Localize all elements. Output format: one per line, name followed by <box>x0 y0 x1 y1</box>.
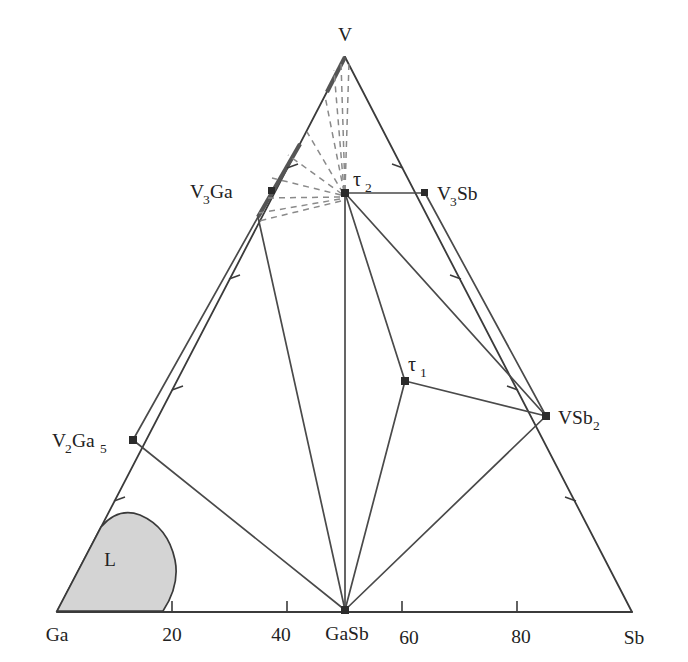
svg-text:2: 2 <box>65 441 72 456</box>
dashline-tau2-v-b <box>345 62 349 191</box>
edge-v-sb <box>345 57 632 612</box>
svg-text:1: 1 <box>420 365 427 380</box>
svg-text:Ga: Ga <box>72 430 95 451</box>
dashline-tau2-edge-2 <box>307 132 343 193</box>
tieline-v3sb-vsb2 <box>425 193 546 416</box>
axis-label-60: 60 <box>399 627 419 648</box>
label-liquid: L <box>104 549 116 570</box>
label-tau1: τ 1 <box>408 353 427 380</box>
marker-tau1 <box>401 377 409 385</box>
axis-label-40: 40 <box>271 624 291 645</box>
label-tau2: τ 2 <box>353 168 372 195</box>
marker-vsb2 <box>542 412 550 420</box>
marker-gasb <box>341 606 349 614</box>
svg-text:τ: τ <box>353 168 361 190</box>
axis-label-sb: Sb <box>624 627 645 648</box>
svg-text:V: V <box>437 183 451 204</box>
axis-label-80: 80 <box>511 626 531 647</box>
label-vsb2: VSb 2 <box>558 407 600 433</box>
svg-text:τ: τ <box>408 353 416 375</box>
ternary-diagram-svg: V V 3 Ga V 3 Sb τ 2 τ 1 VSb 2 V <box>0 0 688 662</box>
bottom-axis-labels: Ga 20 40 GaSb 60 80 Sb <box>46 623 645 648</box>
axis-label-ga: Ga <box>46 624 69 645</box>
label-v-apex: V <box>338 24 352 45</box>
tieline-vsb2-gasb <box>345 416 546 610</box>
liquid-region <box>57 513 176 611</box>
marker-tau2 <box>341 189 349 197</box>
marker-v3ga <box>268 187 275 194</box>
dashline-tau2-v-a <box>341 62 345 191</box>
solid-tielines <box>133 193 546 610</box>
dashline-tau2-edge-5 <box>266 197 340 198</box>
label-v2ga5: V 2 Ga 5 <box>52 430 107 456</box>
svg-text:Sb: Sb <box>457 183 478 204</box>
tieline-tau1-gasb <box>345 381 405 610</box>
svg-text:Ga: Ga <box>210 181 233 202</box>
label-v3sb: V 3 Sb <box>437 183 478 209</box>
svg-text:V: V <box>52 430 66 451</box>
svg-text:VSb: VSb <box>558 407 593 428</box>
svg-text:2: 2 <box>593 418 600 433</box>
svg-text:3: 3 <box>450 194 457 209</box>
label-v3ga: V 3 Ga <box>190 181 233 207</box>
marker-v2ga5 <box>129 436 137 444</box>
tieline-node-v2ga5 <box>133 217 258 440</box>
marker-v3sb <box>421 189 428 196</box>
svg-text:3: 3 <box>203 192 210 207</box>
liquid-region-group <box>57 513 176 611</box>
svg-text:V: V <box>190 181 204 202</box>
axis-label-gasb: GaSb <box>325 623 368 644</box>
band-v3ga-upper <box>258 144 300 217</box>
ternary-phase-diagram: V V 3 Ga V 3 Sb τ 2 τ 1 VSb 2 V <box>0 0 688 662</box>
tieline-tau2-tau1 <box>345 193 405 381</box>
axis-label-20: 20 <box>162 624 182 645</box>
dashline-tau2-edge-1 <box>325 96 344 192</box>
tieline-tau1-vsb2 <box>405 381 546 416</box>
svg-text:2: 2 <box>365 180 372 195</box>
svg-text:5: 5 <box>100 441 107 456</box>
tieline-tau2-vsb2 <box>345 193 546 416</box>
